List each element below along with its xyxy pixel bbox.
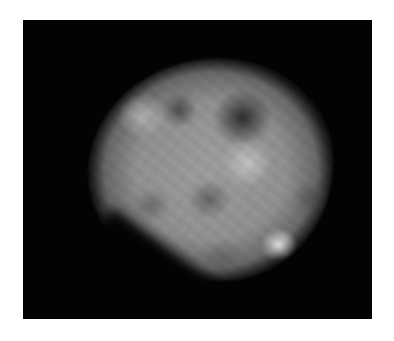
micrograph-frame: fluorescence micrograph of a cell nucleu…	[23, 20, 372, 319]
